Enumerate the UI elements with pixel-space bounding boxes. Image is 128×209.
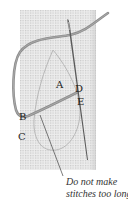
- caption: Do not make stitches too long: [66, 176, 128, 200]
- label-b: B: [19, 112, 26, 122]
- label-c: C: [18, 132, 26, 142]
- caption-line-1: Do not make: [66, 176, 128, 188]
- label-e: E: [77, 97, 84, 107]
- caption-line-2: stitches too long: [66, 188, 128, 200]
- label-d: D: [75, 84, 83, 94]
- label-a: A: [56, 80, 63, 90]
- canvas-shadow: [20, 10, 96, 170]
